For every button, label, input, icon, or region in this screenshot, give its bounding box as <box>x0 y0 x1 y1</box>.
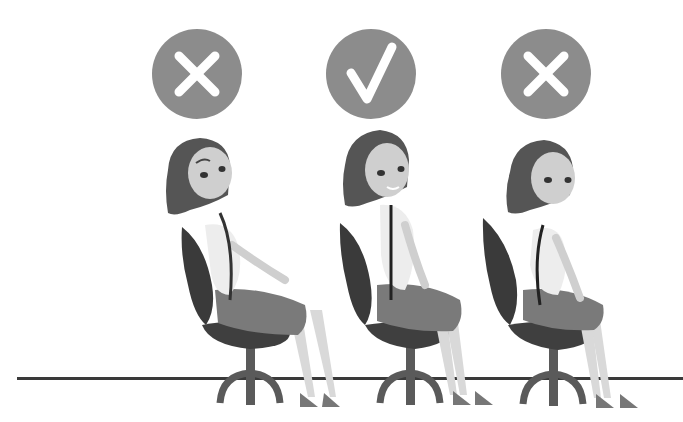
figure-hunched-woman <box>478 140 653 410</box>
badge-incorrect-left <box>152 29 242 119</box>
cross-icon <box>152 29 242 119</box>
figure-upright-woman <box>325 125 500 410</box>
cross-icon <box>501 29 591 119</box>
check-icon <box>326 29 416 119</box>
badge-incorrect-right <box>501 29 591 119</box>
figure-reclined-woman <box>150 135 340 410</box>
badge-correct-center <box>326 29 416 119</box>
posture-illustration: Sitting posture comparison <box>0 0 683 422</box>
